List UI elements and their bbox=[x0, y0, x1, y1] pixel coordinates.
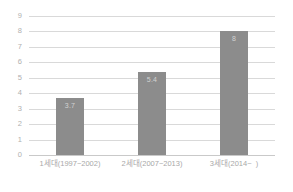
bar-value-label: 8 bbox=[220, 35, 247, 42]
y-tick-label: 5 bbox=[18, 74, 22, 82]
x-category-label: 1세대(1997~2002) bbox=[40, 160, 101, 168]
bar-series-1: 3.7 bbox=[56, 98, 83, 155]
y-tick-label: 7 bbox=[18, 43, 22, 51]
y-tick-label: 0 bbox=[18, 151, 22, 159]
y-tick-label: 8 bbox=[18, 28, 22, 36]
bar-value-label: 5.4 bbox=[138, 76, 165, 83]
bars-layer: 3.7 5.4 8 bbox=[29, 16, 275, 155]
x-axis: 1세대(1997~2002) 2세대(2007~2013) 3세대(2014~ … bbox=[29, 160, 275, 180]
bar-chart-figure: 9 8 7 6 5 4 3 2 1 0 3.7 5.4 8 bbox=[0, 0, 293, 192]
y-tick-label: 1 bbox=[18, 136, 22, 144]
bar-value-label: 3.7 bbox=[56, 102, 83, 109]
y-tick-label: 6 bbox=[18, 59, 22, 67]
bar-series-3: 8 bbox=[220, 31, 247, 155]
plot-area: 3.7 5.4 8 bbox=[29, 16, 275, 155]
y-tick-label: 9 bbox=[18, 12, 22, 20]
y-tick-label: 4 bbox=[18, 89, 22, 97]
x-category-label: 3세대(2014~ ) bbox=[210, 160, 258, 168]
x-category-label: 2세대(2007~2013) bbox=[122, 160, 183, 168]
y-tick-label: 2 bbox=[18, 120, 22, 128]
y-tick-label: 3 bbox=[18, 105, 22, 113]
x-axis-baseline bbox=[29, 155, 275, 156]
bar-series-2: 5.4 bbox=[138, 72, 165, 155]
y-axis: 9 8 7 6 5 4 3 2 1 0 bbox=[0, 16, 26, 155]
